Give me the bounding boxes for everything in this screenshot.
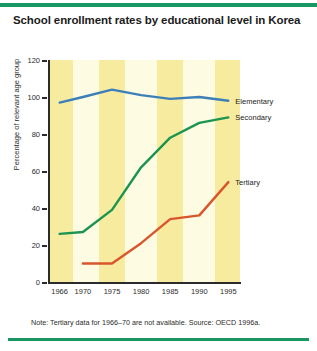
y-tick-label: 0 [36,278,40,287]
series-label-tertiary: Tertiary [235,178,260,187]
figure-panel: School enrollment rates by educational l… [0,0,317,351]
series-lines [48,60,240,282]
x-tick-label: 1985 [162,287,179,296]
y-tick-label: 100 [27,93,40,102]
x-axis-line [48,282,241,284]
y-tick [42,282,47,284]
y-tick [42,171,47,173]
x-tick-label: 1966 [51,287,68,296]
series-label-secondary: Secondary [235,113,271,122]
y-tick [42,97,47,99]
bottom-rule [8,338,309,341]
y-axis-line [48,60,50,283]
y-tick-label: 40 [32,204,40,213]
line-secondary [60,117,229,234]
y-tick-label: 80 [32,130,40,139]
line-elementary [60,90,229,103]
y-tick [42,134,47,136]
x-tick-label: 1995 [220,287,237,296]
x-tick-label: 1970 [75,287,92,296]
y-tick [42,208,47,210]
x-tick-label: 1975 [104,287,121,296]
y-tick [42,245,47,247]
chart-title: School enrollment rates by educational l… [13,14,303,28]
chart-caption: Note: Tertiary data for 1966–70 are not … [31,318,301,327]
y-tick-label: 60 [32,167,40,176]
plot-area [48,60,240,282]
y-tick [42,60,47,62]
x-tick-label: 1990 [191,287,208,296]
x-tick-label: 1980 [133,287,150,296]
y-tick-label: 20 [32,241,40,250]
top-rule [0,3,317,7]
y-tick-label: 120 [27,56,40,65]
line-tertiary [83,182,228,263]
series-label-elementary: Elementary [235,96,273,105]
y-axis-title: Percentage of relevant age group [12,25,21,205]
